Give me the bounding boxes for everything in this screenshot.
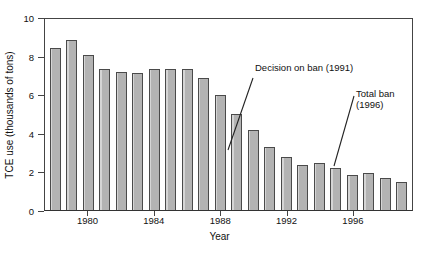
bar-slot [80,19,97,210]
bar[interactable] [149,69,160,210]
bar-slot [361,19,378,210]
bar-slot [64,19,81,210]
annotation-line: Total ban [356,88,395,99]
bar[interactable] [132,73,143,210]
plot-area [44,18,413,211]
x-axis-tick-label: 1980 [77,215,98,226]
bar-slot [311,19,328,210]
bar[interactable] [314,163,325,210]
bar-slot [179,19,196,210]
annotation-decision-on-ban: Decision on ban (1991) [255,62,353,73]
bar-slot [130,19,147,210]
bar-slot [146,19,163,210]
bar[interactable] [231,114,242,210]
x-axis-tick-label: 1992 [276,215,297,226]
bar[interactable] [248,130,259,210]
annotation-line: Decision on ban (1991) [255,62,353,73]
bar-slot [196,19,213,210]
chart-figure: TCE use (thousands of tons) 0246810 1980… [0,0,439,260]
bar[interactable] [50,48,61,210]
bar[interactable] [83,55,94,210]
y-axis-tick-label: 0 [8,206,34,217]
y-axis-tick-label: 2 [8,167,34,178]
bar-slot [328,19,345,210]
bar-slot [344,19,361,210]
y-axis-tick-label: 6 [8,90,34,101]
bar-slot [278,19,295,210]
bar[interactable] [264,147,275,210]
y-axis-tick-label: 8 [8,51,34,62]
x-axis-tick-label: 1988 [210,215,231,226]
bar[interactable] [297,165,308,210]
annotation-line: (1996) [356,99,395,110]
bar[interactable] [347,175,358,210]
bar[interactable] [330,168,341,210]
bar-slot [295,19,312,210]
y-axis-title-label: TCE use (thousands of tons) [4,51,15,178]
bar-slot [245,19,262,210]
bar-slot [47,19,64,210]
x-axis-tick-label: 1984 [143,215,164,226]
bar-series [45,19,412,210]
bar-slot [262,19,279,210]
annotation-total-ban: Total ban(1996) [356,88,395,110]
bar-slot [212,19,229,210]
bar-slot [394,19,411,210]
y-axis-title: TCE use (thousands of tons) [2,18,16,211]
bar-slot [163,19,180,210]
bar[interactable] [380,178,391,210]
bar[interactable] [215,95,226,210]
bar-slot [229,19,246,210]
bar-slot [377,19,394,210]
bar[interactable] [116,72,127,210]
y-axis-tick [38,211,44,212]
bar[interactable] [363,173,374,210]
bar[interactable] [396,182,407,210]
bar[interactable] [182,69,193,210]
x-axis-tick-label: 1996 [342,215,363,226]
bar-slot [113,19,130,210]
bar[interactable] [198,78,209,210]
x-axis-title-label: Year [0,231,439,242]
bar-slot [97,19,114,210]
y-axis-tick-label: 10 [8,13,34,24]
bar[interactable] [165,69,176,210]
y-axis-tick-label: 4 [8,128,34,139]
bar[interactable] [66,40,77,210]
bar[interactable] [281,157,292,210]
bar[interactable] [99,69,110,210]
